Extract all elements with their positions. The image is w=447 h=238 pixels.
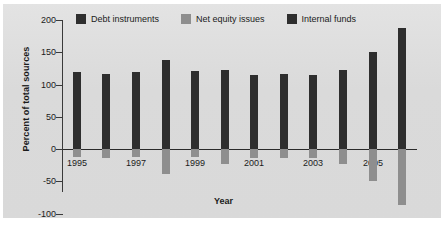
x-axis-title: Year [0, 196, 447, 206]
y-axis-tick-label: 150 [26, 47, 56, 57]
y-axis-tick-label: -50 [26, 176, 56, 186]
y-axis-tick-label: 50 [26, 112, 56, 122]
y-axis-tick [56, 214, 63, 215]
bar-debt-instruments [369, 52, 377, 149]
bar-debt-instruments [162, 60, 170, 149]
y-axis-tick-label: -100 [26, 209, 56, 219]
bar-net-equity-issues [191, 149, 199, 157]
bar-debt-instruments [73, 72, 81, 149]
bar-debt-instruments [132, 72, 140, 149]
bar-net-equity-issues [221, 149, 229, 164]
bar-net-equity-issues [309, 149, 317, 158]
bar-net-equity-issues [132, 149, 140, 157]
bar-net-equity-issues [280, 149, 288, 158]
y-axis-tick-label-wrap: 0 [20, 149, 56, 150]
bar-net-equity-issues [339, 149, 347, 164]
bar-net-equity-issues [369, 149, 377, 181]
bar-debt-instruments [280, 74, 288, 149]
bar-debt-instruments [398, 28, 406, 149]
bar-net-equity-issues [162, 149, 170, 174]
y-axis-tick-label-wrap: 150 [20, 52, 56, 53]
y-axis-tick-label-wrap: 200 [20, 20, 56, 21]
bar-debt-instruments [191, 71, 199, 149]
y-axis-tick-label-wrap: 100 [20, 85, 56, 86]
y-axis-tick-label-wrap: 50 [20, 117, 56, 118]
y-axis-tick-label: 0 [26, 144, 56, 154]
bar-debt-instruments [221, 70, 229, 149]
y-axis-tick-label-wrap: -50 [20, 181, 56, 182]
bar-net-equity-issues [73, 149, 81, 157]
bar-net-equity-issues [398, 149, 406, 205]
bar-net-equity-issues [250, 149, 258, 158]
y-axis-tick-label: 200 [26, 15, 56, 25]
y-axis-tick-label-wrap: -100 [20, 214, 56, 215]
bar-debt-instruments [309, 75, 317, 149]
plot-area [62, 20, 417, 169]
chart-figure: Percent of total sources Year Debt instr… [0, 0, 447, 238]
bar-net-equity-issues [102, 149, 110, 158]
bar-debt-instruments [339, 70, 347, 149]
y-axis-tick [56, 181, 63, 182]
bar-debt-instruments [102, 74, 110, 149]
y-axis-tick-label: 100 [26, 80, 56, 90]
bar-debt-instruments [250, 75, 258, 149]
